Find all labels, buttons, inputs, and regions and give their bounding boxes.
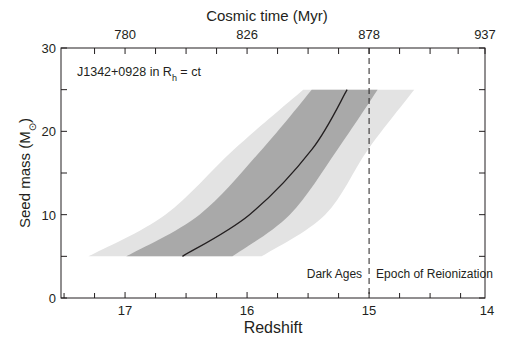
y-tick-label: 0 [49,291,56,306]
top-tick-label: 780 [114,27,136,42]
object-annotation: J1342+0928 in Rh = ct [77,65,201,83]
top-tick-label: 826 [236,27,258,42]
top-axis-ticks: 780826878937 [95,27,496,54]
x-tick-label: 17 [118,303,132,318]
dark-ages-label: Dark Ages [307,267,362,281]
confidence-bands [88,90,414,257]
top-tick-label: 937 [474,27,496,42]
y-axis-label: Seed mass (M⊙) [16,118,38,228]
seed-mass-vs-redshift-chart: 17161514 0102030 780826878937 Redshift C… [0,0,514,344]
x-axis-label: Redshift [244,319,303,336]
reionization-label: Epoch of Reionization [376,267,493,281]
y-tick-label: 20 [42,124,56,139]
x-axis-ticks: 17161514 [64,292,494,318]
y-tick-label: 10 [42,208,56,223]
top-axis-label: Cosmic time (Myr) [206,7,328,24]
x-tick-label: 14 [480,303,494,318]
x-tick-label: 15 [362,303,376,318]
y-tick-label: 30 [42,41,56,56]
top-tick-label: 878 [358,27,380,42]
x-tick-label: 16 [240,303,254,318]
